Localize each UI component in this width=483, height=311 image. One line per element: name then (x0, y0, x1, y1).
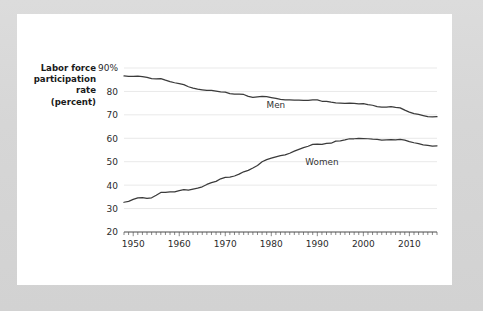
y-tick-label: 30 (107, 204, 119, 214)
x-axis-tick-labels: 1950196019701980199020002010 (122, 239, 421, 249)
y-tick-label: 60 (107, 134, 119, 144)
x-tick-label: 1960 (168, 239, 191, 249)
chart-figure: 2030405060708090% Labor forceparticipati… (17, 14, 452, 285)
y-axis-title-line: Labor force (41, 63, 97, 73)
x-axis (124, 232, 437, 236)
y-axis-title-line: (percent) (51, 97, 96, 107)
series-label-women: Women (305, 157, 338, 167)
x-tick-label: 1970 (214, 239, 237, 249)
y-tick-label: 80 (107, 87, 119, 97)
x-tick-label: 1990 (306, 239, 329, 249)
series-line-men (124, 76, 437, 117)
y-tick-label: 50 (107, 157, 119, 167)
chart-card: 2030405060708090% Labor forceparticipati… (17, 14, 452, 285)
x-tick-label: 1950 (122, 239, 145, 249)
series-line-women (124, 138, 437, 202)
line-chart: 2030405060708090% Labor forceparticipati… (17, 14, 452, 285)
y-tick-label: 90% (98, 63, 118, 73)
y-axis-title-line: rate (76, 85, 96, 95)
x-tick-label: 2000 (352, 239, 375, 249)
y-axis-title-line: participation (34, 74, 96, 84)
series-annotations: MenWomen (267, 100, 339, 167)
gridlines (124, 68, 437, 209)
y-tick-label: 20 (107, 227, 119, 237)
x-tick-label: 1980 (260, 239, 283, 249)
series-label-men: Men (267, 100, 286, 110)
y-tick-label: 70 (107, 110, 119, 120)
y-axis-title: Labor forceparticipationrate(percent) (34, 63, 96, 107)
data-series (124, 76, 437, 202)
x-tick-label: 2010 (398, 239, 421, 249)
y-tick-label: 40 (107, 181, 119, 191)
y-axis-tick-labels: 2030405060708090% (98, 63, 118, 237)
